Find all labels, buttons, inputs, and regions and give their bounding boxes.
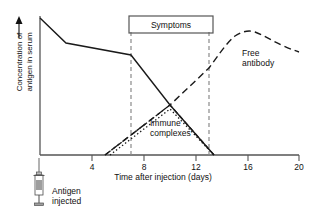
x-tick-label-12: 12 (186, 162, 206, 172)
syringe-icon (34, 158, 45, 205)
x-axis-label: Time after injection (days) (78, 172, 248, 182)
y-axis-label: Concentration of antigen in serum (15, 7, 35, 117)
symptoms-label: Symptoms (129, 20, 213, 30)
x-tick-label-16: 16 (238, 162, 258, 172)
free-antibody-label: Free antibody (242, 48, 308, 68)
x-tick-label-4: 4 (82, 162, 102, 172)
x-tick-label-20: 20 (289, 162, 309, 172)
x-tick-label-8: 8 (134, 162, 154, 172)
chart-canvas (0, 0, 318, 218)
immune-complexes-label: Immune complexes (150, 118, 224, 138)
serum-sickness-chart: Concentration of antigen in serum Time a… (0, 0, 318, 218)
x-axis-ticks (92, 155, 299, 161)
antigen-injected-label: Antigen injected (52, 186, 112, 206)
